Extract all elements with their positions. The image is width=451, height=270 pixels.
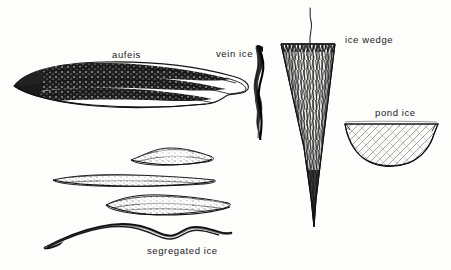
label-segregated-ice: segregated ice xyxy=(147,246,218,256)
aufeis-drawing xyxy=(10,62,248,108)
pond-ice-drawing xyxy=(340,120,444,172)
vein-ice-drawing xyxy=(254,45,263,140)
segregated-ice-lens-3 xyxy=(106,195,230,215)
label-ice-wedge: ice wedge xyxy=(345,35,393,45)
label-pond-ice: pond ice xyxy=(375,108,416,118)
segregated-ice-lens-1 xyxy=(131,148,213,165)
ice-wedge-drawing xyxy=(275,8,341,235)
label-aufeis: aufeis xyxy=(112,50,141,60)
label-vein-ice: vein ice xyxy=(216,49,253,59)
segregated-ice-lens-2 xyxy=(53,175,216,187)
segregated-ice-drawing xyxy=(45,148,231,249)
ground-ice-figure: aufeis vein ice ice wedge pond ice segre… xyxy=(0,0,451,270)
